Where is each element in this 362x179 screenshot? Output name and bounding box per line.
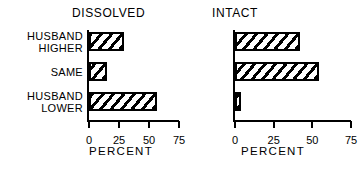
category-label-husband-lower: HUSBAND LOWER: [0, 90, 83, 114]
x-tick-25: [118, 121, 120, 128]
x-tick-0: [88, 121, 90, 128]
bar-husband-higher: [89, 32, 124, 51]
bar-husband-lower: [235, 92, 241, 111]
bar-husband-lower: [89, 92, 157, 111]
plot-area-intact: 0 25 50 75: [233, 30, 351, 120]
x-tick-0: [234, 121, 236, 128]
chart-title-intact: INTACT: [212, 6, 258, 20]
bar-husband-higher: [235, 32, 300, 51]
x-axis-title-dissolved: PERCENT: [89, 145, 153, 158]
bar-same: [235, 62, 319, 81]
x-axis-line: [87, 120, 179, 122]
x-tick-label-0: 0: [232, 134, 238, 146]
chart-panel-dissolved: DISSOLVED HUSBAND HIGHER SAME HUSBAND LO…: [0, 0, 181, 179]
category-label-same: SAME: [0, 66, 83, 78]
chart-title-dissolved: DISSOLVED: [72, 6, 145, 20]
x-axis-line: [233, 120, 351, 122]
figure: DISSOLVED HUSBAND HIGHER SAME HUSBAND LO…: [0, 0, 362, 179]
bar-same: [89, 62, 107, 81]
x-tick-75: [178, 121, 180, 128]
plot-area-dissolved: 0 25 50 75: [87, 30, 179, 120]
chart-panel-intact: INTACT 0 25 50 75 PERCENT: [181, 0, 362, 179]
x-tick-label-50: 50: [306, 134, 318, 146]
x-tick-50: [311, 121, 313, 128]
x-tick-25: [273, 121, 275, 128]
x-axis-title-intact: PERCENT: [241, 145, 305, 158]
x-tick-label-75: 75: [345, 134, 357, 146]
x-tick-50: [148, 121, 150, 128]
x-tick-75: [350, 121, 352, 128]
category-label-husband-higher: HUSBAND HIGHER: [0, 30, 83, 54]
